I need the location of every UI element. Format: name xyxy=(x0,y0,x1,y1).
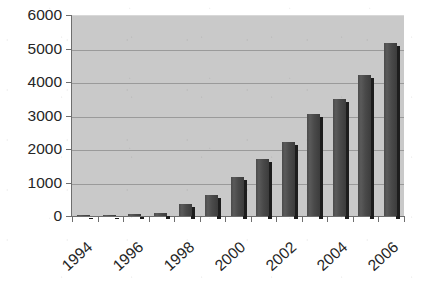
x-axis-line xyxy=(71,216,405,217)
x-axis-tick-label: 2004 xyxy=(314,239,350,274)
bar xyxy=(128,214,141,216)
x-axis-tick-label: 2000 xyxy=(212,239,248,274)
y-tick-mark xyxy=(66,15,71,16)
x-tick-mark xyxy=(98,217,99,222)
y-axis-tick-label: 2000 xyxy=(0,141,62,157)
bar xyxy=(358,75,371,216)
gridline xyxy=(72,150,404,151)
x-axis-tick-label: 1998 xyxy=(161,239,197,274)
x-tick-mark xyxy=(302,217,303,222)
bar-shadow xyxy=(140,217,144,219)
x-tick-mark xyxy=(200,217,201,222)
bar-shadow xyxy=(115,218,119,219)
bar xyxy=(384,43,397,216)
bar-shadow xyxy=(89,218,93,219)
bar xyxy=(77,215,90,216)
x-tick-mark xyxy=(276,217,277,222)
bar-chart: 0100020003000400050006000 19941996199820… xyxy=(0,0,426,285)
y-axis-line xyxy=(71,15,72,217)
bar xyxy=(154,213,167,216)
y-tick-mark xyxy=(66,216,71,217)
y-axis-tick-label: 1000 xyxy=(0,175,62,191)
gridline xyxy=(72,117,404,118)
bar xyxy=(256,159,269,216)
y-axis-tick-label: 4000 xyxy=(0,74,62,90)
bar xyxy=(179,204,192,216)
y-axis-tick-label: 0 xyxy=(0,208,62,224)
x-tick-mark xyxy=(404,217,405,222)
bar xyxy=(231,177,244,216)
y-tick-mark xyxy=(66,149,71,150)
x-axis-tick-label: 2006 xyxy=(365,239,401,274)
x-tick-mark xyxy=(327,217,328,222)
y-tick-mark xyxy=(66,183,71,184)
bar xyxy=(307,114,320,216)
x-tick-mark xyxy=(225,217,226,222)
x-tick-mark xyxy=(149,217,150,222)
x-tick-mark xyxy=(353,217,354,222)
gridline xyxy=(72,50,404,51)
x-tick-mark xyxy=(123,217,124,222)
bar xyxy=(333,99,346,216)
bar-shadow xyxy=(166,216,170,219)
y-tick-mark xyxy=(66,82,71,83)
y-tick-mark xyxy=(66,116,71,117)
bar xyxy=(205,195,218,216)
x-tick-mark xyxy=(378,217,379,222)
x-tick-mark xyxy=(72,217,73,222)
x-tick-mark xyxy=(174,217,175,222)
bar xyxy=(282,142,295,216)
y-tick-mark xyxy=(66,49,71,50)
x-axis-tick-label: 1994 xyxy=(59,239,95,274)
gridline xyxy=(72,83,404,84)
x-tick-mark xyxy=(251,217,252,222)
y-axis-tick-label: 6000 xyxy=(0,7,62,23)
y-axis-tick-label: 3000 xyxy=(0,108,62,124)
x-axis-tick-label: 2002 xyxy=(263,239,299,274)
y-axis-tick-label: 5000 xyxy=(0,41,62,57)
x-axis-tick-label: 1996 xyxy=(110,239,146,274)
bar xyxy=(103,215,116,216)
